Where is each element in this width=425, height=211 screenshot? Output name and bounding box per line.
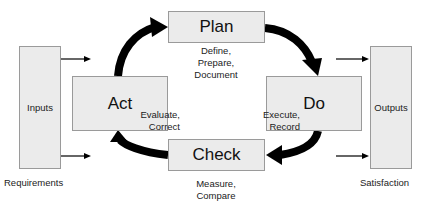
check-box: Check bbox=[168, 139, 265, 171]
arrow-act-to-plan bbox=[118, 17, 168, 76]
outputs-box: Outputs bbox=[370, 46, 412, 169]
arrow-do-to-check bbox=[266, 131, 318, 165]
plan-caption: Define, Prepare, Document bbox=[186, 45, 246, 81]
act-caption-line: Correct bbox=[132, 121, 180, 133]
arrow-inputs-bottom bbox=[60, 153, 91, 159]
act-label: Act bbox=[108, 94, 133, 114]
check-caption-line: Measure, bbox=[186, 178, 246, 190]
arrow-plan-to-do bbox=[265, 28, 322, 76]
plan-caption-line: Define, bbox=[186, 45, 246, 57]
arrow-outputs-bottom bbox=[336, 153, 369, 159]
do-label: Do bbox=[303, 94, 325, 114]
do-caption: Execute, Record bbox=[252, 109, 300, 133]
plan-label: Plan bbox=[199, 17, 233, 37]
arrow-outputs-top bbox=[336, 56, 369, 62]
outputs-caption: Satisfaction bbox=[360, 177, 409, 189]
outputs-label: Outputs bbox=[374, 102, 407, 113]
arrow-check-to-act bbox=[110, 130, 168, 155]
check-caption-line: Compare bbox=[186, 190, 246, 202]
do-caption-line: Execute, bbox=[252, 109, 300, 121]
check-label: Check bbox=[192, 145, 240, 165]
inputs-label: Inputs bbox=[27, 102, 53, 113]
check-caption: Measure, Compare bbox=[186, 178, 246, 202]
inputs-box: Inputs bbox=[19, 46, 61, 169]
arrow-inputs-top bbox=[60, 56, 91, 62]
inputs-caption: Requirements bbox=[4, 177, 63, 189]
plan-box: Plan bbox=[168, 11, 265, 43]
plan-caption-line: Prepare, bbox=[186, 57, 246, 69]
act-caption-line: Evaluate, bbox=[132, 109, 180, 121]
act-caption: Evaluate, Correct bbox=[132, 109, 180, 133]
do-caption-line: Record bbox=[252, 121, 300, 133]
plan-caption-line: Document bbox=[186, 69, 246, 81]
